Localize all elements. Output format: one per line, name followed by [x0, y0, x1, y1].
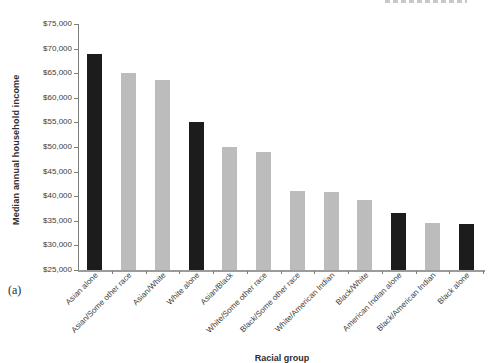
y-axis-tick-label: $60,000: [26, 93, 72, 103]
x-axis-category-label-text: White alone: [165, 271, 201, 307]
bar: [121, 73, 136, 270]
x-axis-tick: [179, 271, 180, 274]
y-axis-tick: [74, 147, 78, 148]
y-axis-tick: [74, 172, 78, 173]
y-axis-tick: [74, 49, 78, 50]
x-axis-tick: [314, 271, 315, 274]
x-axis-tick: [112, 271, 113, 274]
x-axis-category-label-text: Black/American Indian: [375, 271, 438, 334]
y-axis-tick: [74, 73, 78, 74]
y-axis-tick-label: $40,000: [26, 191, 72, 201]
x-axis-category-label-text: White/Some other race: [204, 271, 268, 335]
y-axis-tick-label: $70,000: [26, 44, 72, 54]
bar: [256, 152, 271, 270]
y-axis-tick-label: $25,000: [26, 265, 72, 275]
y-axis-tick: [74, 122, 78, 123]
y-axis-line: [78, 24, 79, 270]
bar: [459, 224, 474, 270]
bar: [87, 54, 102, 270]
x-axis-category-label-text: American Indian alone: [341, 271, 404, 334]
x-axis-category-label-text: Asian/Some other race: [70, 271, 134, 335]
y-axis-tick: [74, 196, 78, 197]
y-axis-tick-label: $65,000: [26, 68, 72, 78]
x-axis-tick: [382, 271, 383, 274]
bar: [189, 122, 204, 270]
x-axis-category-label-text: Black alone: [436, 271, 472, 307]
x-axis-category-label-text: Black/White: [334, 271, 370, 307]
y-axis-tick-label: $50,000: [26, 142, 72, 152]
x-axis-tick: [146, 271, 147, 274]
bar: [357, 200, 372, 270]
y-axis-tick: [74, 221, 78, 222]
y-axis-tick-label: $75,000: [26, 19, 72, 29]
figure-panel: Median annual household income $25,000$3…: [0, 0, 491, 363]
bar: [425, 223, 440, 270]
y-axis-tick-label: $55,000: [26, 117, 72, 127]
x-axis-tick: [416, 271, 417, 274]
x-axis-tick: [247, 271, 248, 274]
plot-area: $25,000$30,000$35,000$40,000$45,000$50,0…: [0, 0, 491, 363]
y-axis-tick: [74, 245, 78, 246]
x-axis-category-label-text: Asian/White: [131, 271, 168, 308]
x-axis-tick: [449, 271, 450, 274]
x-axis-category-label-text: White/American Indian: [273, 271, 336, 334]
x-axis-tick: [281, 271, 282, 274]
x-axis-title: Racial group: [212, 353, 352, 363]
x-axis-tick: [483, 271, 484, 274]
panel-label: (a): [8, 283, 21, 298]
y-axis-tick: [74, 270, 78, 271]
bar: [155, 80, 170, 270]
bar: [391, 213, 406, 270]
bar: [324, 192, 339, 270]
x-axis-category-label-text: Asian/Black: [199, 271, 235, 307]
bar: [222, 147, 237, 270]
y-axis-tick-label: $30,000: [26, 240, 72, 250]
x-axis-tick: [213, 271, 214, 274]
y-axis-tick: [74, 24, 78, 25]
y-axis-tick-label: $35,000: [26, 216, 72, 226]
y-axis-tick: [74, 98, 78, 99]
y-axis-tick-label: $45,000: [26, 167, 72, 177]
x-axis-line: [78, 270, 485, 272]
x-axis-tick: [348, 271, 349, 274]
x-axis-category-label-text: Black/Some other race: [239, 271, 303, 335]
bar: [290, 191, 305, 270]
